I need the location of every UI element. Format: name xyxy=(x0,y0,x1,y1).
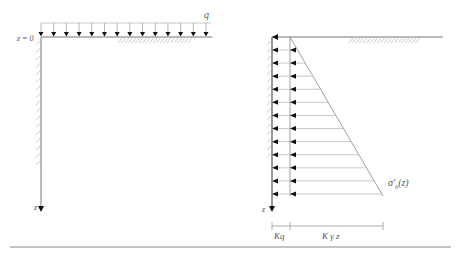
hatch-stroke xyxy=(36,100,41,105)
hatch-stroke xyxy=(188,38,192,43)
pressure-arrow-icon xyxy=(290,100,296,105)
hatch-stroke xyxy=(36,145,41,150)
pressure-arrow-icon xyxy=(290,87,296,92)
hatch-stroke xyxy=(388,38,392,43)
hatch-stroke xyxy=(181,38,185,43)
hatch-stroke xyxy=(267,70,272,75)
hatch-stroke xyxy=(267,138,272,143)
hatch-stroke xyxy=(36,78,41,83)
top-pressure-arrow-icon xyxy=(272,34,278,40)
hatch-stroke xyxy=(125,38,129,43)
hatch-stroke xyxy=(36,85,41,90)
hatch-stroke xyxy=(267,48,272,53)
pressure-arrows xyxy=(272,48,382,197)
hatch-stroke xyxy=(267,55,272,60)
hatch-stroke xyxy=(367,38,371,43)
load-arrow-icon xyxy=(191,32,196,37)
pressure-arrow-icon xyxy=(290,74,296,79)
load-arrow-icon xyxy=(178,32,183,37)
hatch-stroke xyxy=(150,38,154,43)
pressure-arrow-icon xyxy=(290,61,296,66)
pressure-arrow-icon xyxy=(290,178,296,183)
pressure-arrow-icon xyxy=(272,100,278,105)
hatch-stroke xyxy=(360,38,364,43)
hatch-stroke xyxy=(405,38,409,43)
hatch-stroke xyxy=(267,100,272,105)
hatch-stroke xyxy=(36,48,41,53)
hatch-stroke xyxy=(174,38,178,43)
hatch-stroke xyxy=(267,85,272,90)
pressure-distribution-line xyxy=(290,37,383,196)
depth-axis-label: z xyxy=(261,205,266,214)
pressure-arrow-icon xyxy=(272,61,278,66)
load-arrow-icon xyxy=(64,32,69,37)
pressure-arrow-icon xyxy=(272,87,278,92)
hatch-stroke xyxy=(416,38,420,43)
stress-argument: (z) xyxy=(398,177,409,189)
pressure-arrow-icon xyxy=(290,165,296,170)
depth-arrow-icon xyxy=(269,206,275,212)
pressure-arrow-icon xyxy=(272,178,278,183)
hatch-stroke xyxy=(132,38,136,43)
hatch-stroke xyxy=(36,115,41,120)
load-arrow-icon xyxy=(165,32,170,37)
load-arrow-icon xyxy=(204,32,209,37)
right-panel: z σ′h(z) Kq K γ z xyxy=(261,34,443,241)
hatch-stroke xyxy=(391,38,395,43)
pressure-arrow-icon xyxy=(290,113,296,118)
pressure-arrow-icon xyxy=(272,165,278,170)
hatch-stroke xyxy=(398,38,402,43)
hatch-stroke xyxy=(36,55,41,60)
hatch-stroke xyxy=(160,38,164,43)
hatch-stroke xyxy=(178,38,182,43)
depth-arrow-icon xyxy=(38,206,44,212)
pressure-arrow-icon xyxy=(290,126,296,131)
pressure-arrow-icon xyxy=(290,152,296,157)
hatch-stroke xyxy=(409,38,413,43)
pressure-arrow-icon xyxy=(272,113,278,118)
hatch-stroke xyxy=(267,40,272,45)
pressure-arrow-icon xyxy=(290,139,296,144)
hatch-stroke xyxy=(267,123,272,128)
hatch-stroke xyxy=(36,130,41,135)
hatch-stroke xyxy=(36,153,41,158)
pressure-arrow-icon xyxy=(272,152,278,157)
stress-label: σ′h(z) xyxy=(388,177,409,190)
hatch-stroke xyxy=(267,115,272,120)
hatch-stroke xyxy=(164,38,168,43)
hatch-stroke xyxy=(356,38,360,43)
load-arrow-icon xyxy=(51,32,56,37)
hatch-stroke xyxy=(171,38,175,43)
hatch-stroke xyxy=(353,38,357,43)
pressure-arrow-icon xyxy=(272,126,278,131)
hatch-stroke xyxy=(129,38,133,43)
hatch-stroke xyxy=(370,38,374,43)
hatch-stroke xyxy=(36,138,41,143)
load-arrow-icon xyxy=(102,32,107,37)
hatch-stroke xyxy=(384,38,388,43)
hatch-stroke xyxy=(267,153,272,158)
hatch-stroke xyxy=(36,40,41,45)
hatch-stroke xyxy=(36,160,41,165)
load-arrow-icon xyxy=(115,32,120,37)
hatch-stroke xyxy=(36,63,41,68)
hatch-stroke xyxy=(267,93,272,98)
hatch-stroke xyxy=(377,38,381,43)
hatch-stroke xyxy=(157,38,161,43)
depth-axis-label: z xyxy=(33,203,38,212)
ground-hatch xyxy=(118,38,192,43)
hatch-stroke xyxy=(167,38,171,43)
hatch-stroke xyxy=(374,38,378,43)
hatch-stroke xyxy=(146,38,150,43)
hatch-stroke xyxy=(36,93,41,98)
hatch-stroke xyxy=(267,145,272,150)
hatch-stroke xyxy=(153,38,157,43)
left-panel: q z = 0 z xyxy=(16,9,212,212)
hatch-stroke xyxy=(36,123,41,128)
dim-kq-label: Kq xyxy=(273,231,285,241)
hatch-stroke xyxy=(363,38,367,43)
ground-hatch xyxy=(349,38,420,43)
hatch-stroke xyxy=(139,38,143,43)
hatch-stroke xyxy=(395,38,399,43)
hatch-stroke xyxy=(381,38,385,43)
